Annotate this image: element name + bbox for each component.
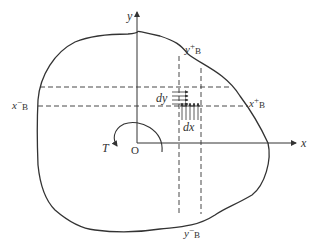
- cross-section-diagram: y x O T dy dx x−B x+B y+B y−B: [0, 0, 321, 247]
- section-boundary: [37, 31, 269, 232]
- dx-label: dx: [183, 120, 195, 134]
- y-axis-label: y: [126, 9, 133, 23]
- dy-shear-arrows: [172, 92, 188, 104]
- torque-label: T: [102, 141, 110, 155]
- dy-label: dy: [156, 91, 168, 105]
- y-plus-b-label: y+B: [184, 41, 201, 56]
- x-axis-label: x: [300, 136, 307, 150]
- x-plus-b-label: x+B: [248, 95, 265, 110]
- y-minus-b-label: y−B: [183, 225, 200, 240]
- origin-label: O: [131, 144, 139, 156]
- x-minus-b-label: x−B: [11, 97, 28, 112]
